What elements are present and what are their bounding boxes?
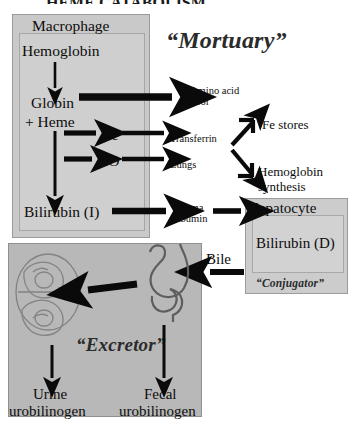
node-hemoglobin-synthesis-line1: Hemoglobin: [258, 165, 323, 178]
diagram-title: HEME CATABOLISM: [46, 0, 306, 4]
node-bilirubin-direct: Bilirubin (D): [256, 236, 335, 251]
node-transferrin: Transferrin: [170, 134, 217, 145]
macrophage-label: Macrophage: [32, 18, 109, 34]
hepatocyte-label: Hepatocyte: [248, 201, 316, 216]
diagram-canvas: HEME CATABOLISM Macrophage Hemoglobin Gl…: [0, 0, 348, 435]
output-urine-line2: urobilinogen: [9, 404, 86, 419]
node-co: CO: [98, 153, 120, 169]
output-fecal-line1: Fecal: [144, 387, 176, 402]
node-hemoglobin-synthesis-line2: synthesis: [258, 180, 306, 193]
excretor-quote: “Excretor”: [76, 334, 166, 356]
node-bile: Bile: [206, 252, 231, 267]
mortuary-quote: “Mortuary”: [166, 27, 287, 54]
node-fe-stores: Fe stores: [262, 118, 309, 131]
node-globin: Globin: [31, 95, 74, 111]
node-amino-acid-pool-line2: pool: [190, 97, 209, 108]
node-hemoglobin: Hemoglobin: [22, 43, 100, 59]
conjugator-quote: “Conjugator”: [256, 277, 324, 289]
node-fe: Fe: [103, 127, 119, 143]
node-lungs: Lungs: [170, 160, 196, 171]
node-plasma-albumin-line2: albumin: [173, 214, 207, 225]
arrow-transferrin-to-hemoglobin-synthesis: [232, 150, 253, 177]
macrophage-inner-panel: [19, 33, 145, 231]
output-fecal-line2: urobilinogen: [119, 404, 196, 419]
node-heme: + Heme: [25, 114, 75, 130]
output-urine-line1: Urine: [33, 387, 67, 402]
arrow-transferrin-to-fe-stores: [232, 120, 254, 145]
node-bilirubin-indirect: Bilirubin (I): [24, 204, 99, 220]
